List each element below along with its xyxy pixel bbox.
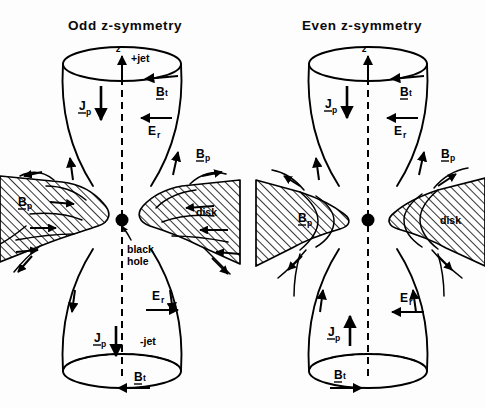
even-disk-left-escape-arrow-1 bbox=[284, 176, 300, 186]
even-disk-label: disk bbox=[440, 214, 461, 226]
svg-text:B: B bbox=[18, 195, 27, 209]
svg-text:p: p bbox=[101, 339, 106, 349]
svg-text:B: B bbox=[334, 368, 343, 382]
odd-upper-left-wall bbox=[62, 64, 93, 186]
odd-er-bottom-label: E r bbox=[152, 289, 165, 305]
even-bp-upper-left-arrow bbox=[316, 158, 319, 180]
even-er-top-label: E r bbox=[394, 124, 407, 140]
svg-text:J: J bbox=[79, 99, 86, 113]
odd-disk-right-wedge bbox=[139, 180, 240, 264]
svg-text:p: p bbox=[332, 105, 337, 115]
svg-text:B: B bbox=[400, 85, 409, 99]
even-lower-jet-outline bbox=[308, 249, 427, 388]
panel-odd: Odd z-symmetry bbox=[0, 18, 240, 388]
even-bp-right-label: B p bbox=[441, 147, 455, 163]
panel-even: Even z-symmetry z B bbox=[256, 18, 485, 388]
svg-text:t: t bbox=[409, 88, 412, 98]
odd-z-label: z bbox=[116, 43, 121, 54]
even-z-label: z bbox=[362, 43, 367, 54]
svg-text:E: E bbox=[394, 124, 402, 138]
panel-title-odd: Odd z-symmetry bbox=[68, 18, 182, 33]
svg-text:t: t bbox=[143, 373, 146, 383]
svg-text:r: r bbox=[403, 130, 407, 140]
even-lower-left-wall bbox=[308, 249, 339, 371]
svg-text:J: J bbox=[328, 325, 335, 339]
even-lower-right-wall-arrow bbox=[413, 290, 416, 312]
svg-text:J: J bbox=[325, 97, 332, 111]
odd-disk-right-escape-arrow-2 bbox=[212, 258, 228, 274]
svg-text:t: t bbox=[343, 371, 346, 381]
svg-text:p: p bbox=[27, 201, 32, 211]
figure-root: Odd z-symmetry bbox=[0, 0, 485, 408]
even-lower-left-wall-arrow bbox=[320, 290, 323, 312]
even-er-bottom-label: E r bbox=[400, 291, 413, 307]
odd-plus-jet-label: +jet bbox=[131, 52, 150, 64]
even-disk-left: B p bbox=[256, 170, 349, 296]
svg-text:r: r bbox=[409, 297, 413, 307]
odd-bt-top-label: B t bbox=[156, 85, 168, 99]
odd-disk-label: disk bbox=[196, 206, 217, 218]
odd-bp-right-label: B p bbox=[196, 147, 210, 163]
odd-er-top-label: E r bbox=[148, 124, 161, 140]
svg-text:B: B bbox=[196, 147, 205, 161]
svg-text:p: p bbox=[307, 218, 312, 228]
odd-lower-left-wall bbox=[62, 249, 93, 371]
odd-minus-jet-label: -jet bbox=[140, 335, 156, 347]
svg-text:p: p bbox=[86, 107, 91, 117]
odd-jp-top-label: J p bbox=[78, 99, 91, 117]
odd-black-hole-label-line1: black bbox=[127, 243, 154, 255]
even-bp-upper-right-arrow bbox=[419, 152, 424, 175]
z-symmetry-diagram: Odd z-symmetry bbox=[0, 0, 485, 408]
svg-text:r: r bbox=[161, 295, 165, 305]
svg-text:B: B bbox=[298, 211, 307, 225]
odd-jp-bottom-label: J p bbox=[93, 331, 106, 349]
even-disk-left-escape-2 bbox=[278, 250, 306, 278]
svg-text:B: B bbox=[134, 370, 143, 384]
odd-disk-left: B p bbox=[0, 172, 109, 272]
svg-text:t: t bbox=[165, 88, 168, 98]
odd-lower-jet-outline bbox=[62, 249, 181, 388]
even-lower-right-wall bbox=[397, 249, 428, 371]
svg-text:B: B bbox=[156, 85, 165, 99]
svg-text:J: J bbox=[94, 331, 101, 345]
even-jp-bottom-label: J p bbox=[327, 325, 340, 343]
svg-text:E: E bbox=[152, 289, 160, 303]
svg-text:p: p bbox=[450, 153, 455, 163]
even-bt-bottom-label: B t bbox=[334, 368, 346, 382]
even-upper-left-wall bbox=[308, 64, 339, 186]
svg-text:r: r bbox=[157, 130, 161, 140]
panel-title-even: Even z-symmetry bbox=[302, 18, 422, 33]
svg-text:E: E bbox=[148, 124, 156, 138]
even-black-hole-dot bbox=[362, 214, 375, 227]
even-disk-right: disk bbox=[389, 168, 485, 296]
odd-disk-right: disk bbox=[139, 172, 240, 274]
svg-text:p: p bbox=[335, 333, 340, 343]
odd-black-hole-label-line2: hole bbox=[127, 255, 149, 267]
odd-black-hole-pointer bbox=[123, 227, 131, 240]
odd-bt-bottom-label: B t bbox=[134, 370, 146, 384]
even-bt-top-label: B t bbox=[400, 85, 412, 99]
svg-text:E: E bbox=[400, 291, 408, 305]
odd-bp-upper-left-arrow bbox=[70, 158, 73, 180]
even-disk-left-escape-arrow-2 bbox=[288, 256, 302, 270]
even-jp-top-label: J p bbox=[324, 97, 337, 115]
odd-bp-upper-right-arrow bbox=[173, 152, 178, 175]
odd-black-hole-dot bbox=[116, 214, 129, 227]
svg-text:p: p bbox=[205, 153, 210, 163]
svg-text:B: B bbox=[441, 147, 450, 161]
